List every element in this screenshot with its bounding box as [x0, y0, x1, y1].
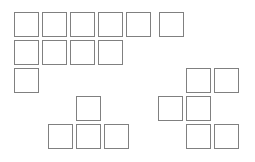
square-r1c4[interactable] — [98, 12, 123, 37]
square-r1c1[interactable] — [14, 12, 39, 37]
square-m-top[interactable] — [76, 96, 101, 121]
square-r2c3[interactable] — [70, 40, 95, 65]
square-r2c1[interactable] — [14, 40, 39, 65]
square-m-bc[interactable] — [76, 124, 101, 149]
square-r2c4[interactable] — [98, 40, 123, 65]
square-r1c2[interactable] — [42, 12, 67, 37]
square-r1c3[interactable] — [70, 12, 95, 37]
square-r1c6[interactable] — [159, 12, 184, 37]
square-r-m2[interactable] — [186, 96, 211, 121]
square-r-m1[interactable] — [158, 96, 183, 121]
square-r-t2[interactable] — [214, 68, 239, 93]
square-m-br[interactable] — [104, 124, 129, 149]
diagram-canvas — [0, 0, 255, 162]
square-r2c2[interactable] — [42, 40, 67, 65]
square-r1c5[interactable] — [126, 12, 151, 37]
square-r-b1[interactable] — [186, 124, 211, 149]
square-r-b2[interactable] — [214, 124, 239, 149]
square-r3c1[interactable] — [14, 68, 39, 93]
square-r-t1[interactable] — [186, 68, 211, 93]
square-m-bl[interactable] — [48, 124, 73, 149]
